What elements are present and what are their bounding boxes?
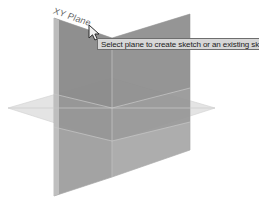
- overlap-upper-left: [54, 18, 112, 108]
- front-plane-edge-highlight: [54, 18, 59, 196]
- modeling-viewport[interactable]: XY Plane Select plane to create sketch o…: [0, 0, 259, 214]
- plane-intersection-shading: [54, 14, 190, 141]
- front-plane-left-edge: [54, 18, 59, 196]
- status-tooltip: Select plane to create sketch or an exis…: [97, 38, 259, 50]
- reference-planes-scene[interactable]: [0, 0, 259, 214]
